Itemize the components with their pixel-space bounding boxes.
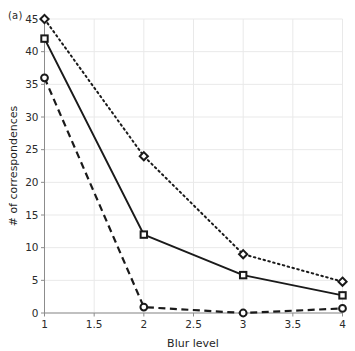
y-tick-label: 40 <box>25 45 38 57</box>
marker-diamond <box>338 278 346 286</box>
marker-diamond <box>40 15 48 23</box>
x-tick-labels: 11.522.533.54 <box>41 318 346 330</box>
y-tick-label: 30 <box>25 111 38 123</box>
y-tick-label: 35 <box>25 78 38 90</box>
marker-circle <box>240 310 247 317</box>
x-tick-label: 4 <box>339 318 346 330</box>
x-tick-label: 3.5 <box>284 318 301 330</box>
tick-marks <box>41 19 343 317</box>
marker-circle <box>41 74 48 81</box>
x-axis-title: Blur level <box>167 337 219 350</box>
marker-square <box>141 231 147 237</box>
marker-circle <box>339 305 346 312</box>
marker-square <box>240 272 246 278</box>
y-tick-label: 20 <box>25 176 38 188</box>
y-tick-label: 25 <box>25 143 38 155</box>
y-tick-label: 45 <box>25 13 38 25</box>
x-tick-label: 3 <box>240 318 247 330</box>
x-tick-label: 1.5 <box>86 318 103 330</box>
y-tick-label: 5 <box>32 274 39 286</box>
x-tick-label: 2.5 <box>185 318 202 330</box>
figure-panel: (a) 051015202530354045 11.522.533.54 Blu… <box>0 0 355 351</box>
y-tick-label: 10 <box>25 241 38 253</box>
y-tick-labels: 051015202530354045 <box>25 13 38 319</box>
x-tick-label: 2 <box>140 318 147 330</box>
x-tick-label: 1 <box>41 318 48 330</box>
y-axis-title: # of correspondences <box>7 105 20 226</box>
y-tick-label: 0 <box>32 307 39 319</box>
marker-circle <box>140 304 147 311</box>
line-chart: 051015202530354045 11.522.533.54 Blur le… <box>0 0 355 351</box>
marker-square <box>339 292 345 298</box>
marker-square <box>41 35 47 41</box>
y-tick-label: 15 <box>25 209 38 221</box>
